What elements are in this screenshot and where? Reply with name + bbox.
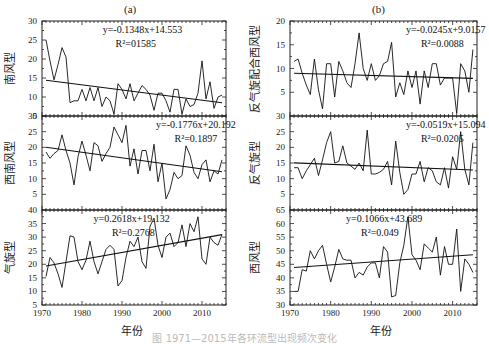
y-tick-label: 10 <box>28 92 38 102</box>
trend-line <box>294 255 473 268</box>
trend-line <box>46 235 222 266</box>
y-tick-label: 55 <box>276 232 286 242</box>
y-tick-label: 20 <box>28 259 38 269</box>
x-tick-label: 1990 <box>362 308 381 318</box>
y-tick-label: 65 <box>276 205 286 215</box>
y-tick-label: 15 <box>28 273 38 283</box>
r-squared: R²=0.0205 <box>421 133 464 144</box>
y-axis-label: 反气旋配合西风型 <box>248 25 262 113</box>
y-tick-label: 5 <box>281 189 286 199</box>
y-tick-label: 25 <box>276 127 286 137</box>
x-tick-label: 1980 <box>73 308 92 318</box>
y-tick-label: 35 <box>28 219 38 229</box>
panel-a-3: 51015202530354019701980199020002010气旋型y=… <box>3 205 226 318</box>
r-squared: R²=01585 <box>116 38 156 49</box>
series-line <box>46 40 222 114</box>
y-tick-label: 15 <box>28 158 38 168</box>
y-tick-label: 15 <box>276 40 286 50</box>
regression-equation: y=-0.1776x+20.192 <box>156 119 236 130</box>
panel-a-1: 51015202530南风型y=-0.1348x+14.553R²=01585 <box>3 16 226 121</box>
y-tick-label: 30 <box>276 111 286 121</box>
y-tick-label: 40 <box>28 205 38 215</box>
r-squared: R²=0.049 <box>361 227 399 238</box>
y-tick-label: 30 <box>28 16 38 26</box>
y-tick-label: 60 <box>276 219 286 229</box>
plot-frame <box>290 21 477 116</box>
y-tick-label: 25 <box>28 246 38 256</box>
x-tick-label: 2010 <box>193 308 212 318</box>
plot-frame <box>290 210 477 305</box>
y-tick-label: 25 <box>28 35 38 45</box>
y-tick-label: 45 <box>276 259 286 269</box>
y-axis-label: 西风型 <box>248 241 262 274</box>
y-tick-label: 5 <box>281 87 286 97</box>
regression-equation: y=-0.0245x+9.0157 <box>406 24 486 35</box>
y-tick-label: 10 <box>276 174 286 184</box>
y-tick-label: 15 <box>276 158 286 168</box>
y-tick-label: 10 <box>28 286 38 296</box>
y-tick-label: 10 <box>28 174 38 184</box>
y-tick-label: 35 <box>276 286 286 296</box>
regression-equation: y=-0.1348x+14.553 <box>103 24 183 35</box>
y-tick-label: 5 <box>33 189 38 199</box>
column-label-b: (b) <box>372 3 385 15</box>
y-tick-label: 15 <box>28 73 38 83</box>
panel-b-2: 51015202530反气旋型y=-0.0519x+15.094R²=0.020… <box>248 111 486 210</box>
x-tick-label: 1970 <box>33 308 52 318</box>
y-axis-label: 西南风型 <box>3 141 17 185</box>
panel-b-3: 303540455055606519701980199020002010西风型y… <box>248 205 477 318</box>
x-tick-label: 2010 <box>444 308 463 318</box>
y-tick-label: 10 <box>276 64 286 74</box>
y-tick-label: 50 <box>276 246 286 256</box>
y-tick-label: 20 <box>276 16 286 26</box>
y-tick-label: 20 <box>276 142 286 152</box>
r-squared: R²=0.2768 <box>112 227 155 238</box>
y-tick-label: 30 <box>28 111 38 121</box>
panel-b-1: 5101520反气旋配合西风型y=-0.0245x+9.0157R²=0.008… <box>248 16 486 116</box>
x-tick-label: 2000 <box>153 308 172 318</box>
y-axis-label: 反气旋型 <box>248 141 262 185</box>
x-tick-label: 1980 <box>322 308 341 318</box>
r-squared: R²=0.1897 <box>174 133 217 144</box>
figure-caption: 图 1971—2015年各环流型出现频次变化 <box>0 330 489 344</box>
regression-equation: y=0.2618x+19.132 <box>94 213 170 224</box>
y-tick-label: 20 <box>28 54 38 64</box>
y-axis-label: 气旋型 <box>3 241 17 274</box>
y-tick-label: 25 <box>28 127 38 137</box>
y-tick-label: 40 <box>276 273 286 283</box>
x-tick-label: 1970 <box>281 308 300 318</box>
figure: 51015202530南风型y=-0.1348x+14.553R²=015855… <box>0 0 489 344</box>
y-axis-label: 南风型 <box>3 52 17 85</box>
y-tick-label: 20 <box>28 142 38 152</box>
column-label-a: (a) <box>124 3 136 15</box>
regression-equation: y=-0.0519x+15.094 <box>406 119 486 130</box>
plot-frame <box>290 116 477 210</box>
y-tick-label: 30 <box>28 232 38 242</box>
x-tick-label: 2000 <box>403 308 422 318</box>
r-squared: R²=0.0088 <box>421 38 464 49</box>
regression-equation: y=0.1066x+43.689 <box>346 213 422 224</box>
trend-line <box>294 73 473 78</box>
x-tick-label: 1990 <box>113 308 132 318</box>
panel-a-2: 51015202530西南风型y=-0.1776x+20.192R²=0.189… <box>3 111 236 210</box>
